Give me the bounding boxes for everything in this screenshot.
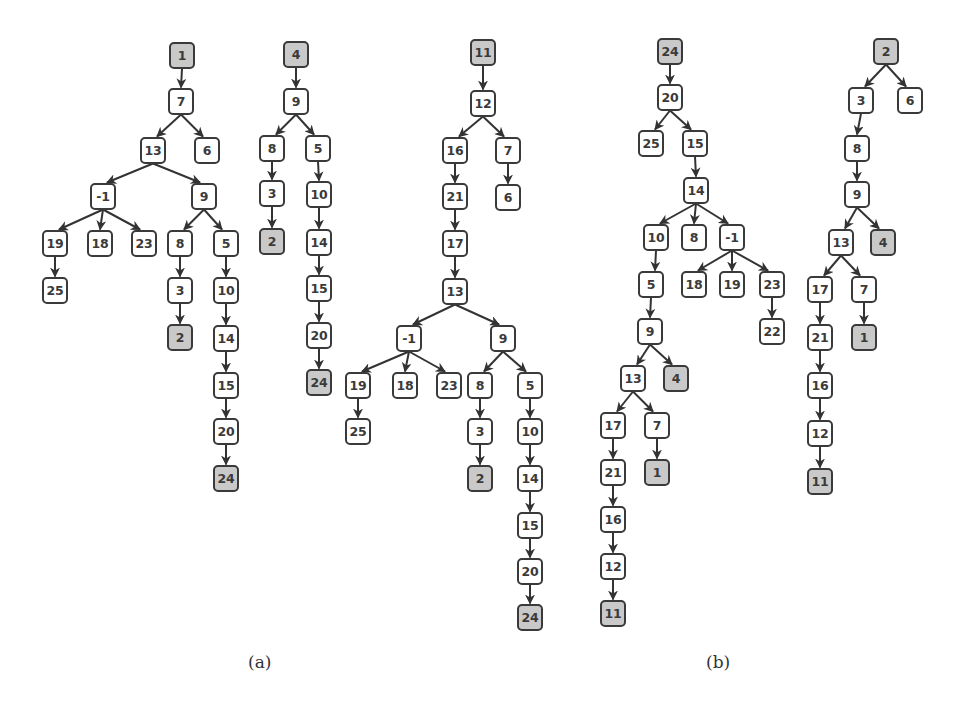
tree-node: 8 <box>167 230 193 257</box>
edge-arrow <box>157 115 181 137</box>
tree-node: 3 <box>259 180 285 207</box>
edge-arrow <box>107 164 153 183</box>
tree-node: 13 <box>828 229 854 256</box>
tree-node: 5 <box>213 230 239 257</box>
edge-arrow <box>296 115 314 135</box>
tree-node: 23 <box>436 372 462 399</box>
tree-node: 7 <box>851 276 877 303</box>
edge-arrow <box>503 352 526 372</box>
edge-arrow <box>100 210 103 230</box>
tree-node: 8 <box>844 135 870 162</box>
tree-node: 14 <box>683 177 709 204</box>
tree-node-highlighted: 4 <box>283 41 309 68</box>
tree-node: 14 <box>517 465 543 492</box>
edge-arrow <box>483 117 504 137</box>
tree-node: 9 <box>283 88 309 115</box>
tree-node-highlighted: 1 <box>644 459 670 486</box>
tree-node: 14 <box>213 325 239 352</box>
tree-node: 5 <box>517 372 543 399</box>
tree-node: 6 <box>897 87 923 114</box>
tree-node: 10 <box>517 418 543 445</box>
tree-node: 16 <box>807 372 833 399</box>
tree-node-highlighted: 11 <box>807 468 833 495</box>
tree-node: 13 <box>442 278 468 305</box>
edge-arrow <box>617 392 633 412</box>
tree-node: 9 <box>637 318 663 345</box>
tree-node: 17 <box>807 276 833 303</box>
tree-node: 3 <box>848 87 874 114</box>
edge-arrow <box>484 352 503 372</box>
edge-arrow <box>655 111 670 130</box>
tree-node: 20 <box>517 558 543 585</box>
tree-node: 25 <box>638 130 664 157</box>
tree-node: 9 <box>844 181 870 208</box>
tree-node: 22 <box>759 318 785 345</box>
tree-node: 23 <box>759 271 785 298</box>
edge-arrow <box>637 345 650 365</box>
edge-arrow <box>841 256 860 276</box>
edge-arrow <box>845 208 857 229</box>
tree-node-highlighted: 4 <box>870 229 896 256</box>
edge-arrow <box>633 392 653 412</box>
tree-node: 15 <box>213 372 239 399</box>
edge-arrow <box>455 305 499 325</box>
tree-node: 20 <box>306 322 332 349</box>
tree-node: 10 <box>643 224 669 251</box>
tree-node: 17 <box>442 230 468 257</box>
edge-arrow <box>650 298 651 318</box>
tree-node: 23 <box>131 230 157 257</box>
tree-node: 25 <box>42 277 68 304</box>
tree-node: 7 <box>168 88 194 115</box>
tree-node: 3 <box>467 418 493 445</box>
tree-node: 12 <box>807 420 833 447</box>
edge-arrow <box>655 251 656 271</box>
tree-node: 7 <box>495 137 521 164</box>
tree-node: 20 <box>657 84 683 111</box>
edge-arrow <box>694 204 696 224</box>
tree-node: -1 <box>396 325 422 352</box>
edge-arrow <box>650 345 672 365</box>
tree-node: 6 <box>194 137 220 164</box>
tree-node: 19 <box>42 230 68 257</box>
edge-arrow <box>184 210 204 230</box>
tree-node: -1 <box>719 224 745 251</box>
tree-node: 6 <box>495 184 521 211</box>
tree-node-highlighted: 2 <box>467 465 493 492</box>
tree-node-highlighted: 2 <box>167 324 193 351</box>
tree-node: 19 <box>719 271 745 298</box>
tree-node: 13 <box>620 365 646 392</box>
tree-node-highlighted: 2 <box>873 38 899 65</box>
tree-node: 8 <box>259 135 285 162</box>
edge-arrow <box>362 352 409 372</box>
tree-node: 18 <box>681 271 707 298</box>
tree-node-highlighted: 11 <box>470 39 496 66</box>
tree-node-highlighted: 2 <box>259 228 285 255</box>
edge-arrow <box>59 210 103 230</box>
edge-arrow <box>318 162 319 181</box>
edge-arrow <box>857 208 879 229</box>
edge-arrow <box>865 65 886 87</box>
tree-node: 18 <box>392 372 418 399</box>
edge-arrow <box>459 117 483 137</box>
edge-arrow <box>886 65 906 87</box>
tree-node-highlighted: 4 <box>663 365 689 392</box>
edge-arrow <box>857 114 861 135</box>
edge-arrow <box>413 305 455 325</box>
tree-node: 25 <box>345 418 371 445</box>
tree-node: 7 <box>644 412 670 439</box>
tree-node: 17 <box>600 412 626 439</box>
edge-arrow <box>696 204 728 224</box>
tree-node-highlighted: 24 <box>306 369 332 396</box>
tree-node: 21 <box>807 324 833 351</box>
tree-node-highlighted: 1 <box>851 324 877 351</box>
edge-arrow <box>695 157 696 177</box>
tree-node: 19 <box>345 372 371 399</box>
edge-arrow <box>181 69 182 88</box>
tree-node: 5 <box>638 271 664 298</box>
tree-node: 15 <box>682 130 708 157</box>
tree-node-highlighted: 1 <box>169 42 195 69</box>
edge-arrow <box>276 115 296 135</box>
tree-node: 15 <box>306 275 332 302</box>
tree-node: 5 <box>305 135 331 162</box>
tree-node: 20 <box>213 418 239 445</box>
